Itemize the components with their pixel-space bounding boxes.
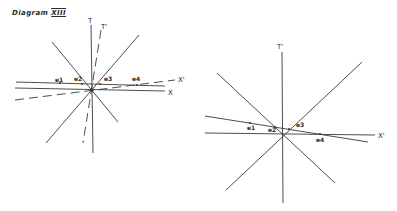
event-label-e3: e3 <box>104 75 112 82</box>
event-point <box>81 83 83 85</box>
event-label-e3: e3 <box>296 121 304 128</box>
event-point <box>288 128 290 130</box>
origin-point <box>90 88 93 91</box>
event-label-e2: e2 <box>74 75 82 82</box>
x-prime-axis-line <box>205 133 375 135</box>
t-prime-axis-label: T' <box>100 23 107 31</box>
event-label-e1: e1 <box>247 124 255 131</box>
t-prime-axis-dashed-line <box>83 30 101 143</box>
event-point <box>319 133 321 135</box>
left-diagram: T T' X X' e1 e2 e3 e4 <box>15 17 185 153</box>
t-axis-label: T <box>87 17 93 25</box>
diagram-canvas: T T' X X' e1 e2 e3 e4 T' X' e1 e2 e3 e4 <box>0 0 397 211</box>
right-diagram: T' X' e1 e2 e3 e4 <box>205 43 385 203</box>
event-label-e2: e2 <box>268 126 276 133</box>
t-prime-axis-line <box>282 52 283 203</box>
event-point <box>99 83 101 85</box>
event-label-e1: e1 <box>55 76 63 83</box>
x-prime-axis-label: X' <box>178 76 185 84</box>
x-axis-label: X <box>168 89 173 97</box>
event-label-e4: e4 <box>316 136 324 143</box>
t-prime-axis-label: T' <box>276 43 283 51</box>
event-point <box>136 84 138 86</box>
event-label-e4: e4 <box>132 75 140 82</box>
x-prime-axis-label: X' <box>378 132 385 140</box>
